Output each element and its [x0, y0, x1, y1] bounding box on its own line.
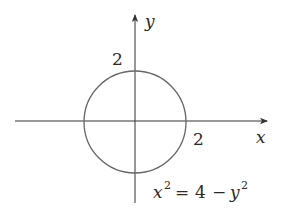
equation-rhs-exp: 2	[241, 179, 248, 192]
diagram-canvas: y x 2 2 x 2 = 4 − y 2	[0, 0, 290, 219]
equation-equals: =	[175, 182, 189, 202]
equation-rhs-base: y	[229, 182, 240, 202]
y-intercept-label: 2	[112, 49, 123, 69]
x-axis-label: x	[256, 127, 266, 147]
x-intercept-label: 2	[193, 129, 204, 149]
equation-lhs-base: x	[153, 182, 163, 202]
equation-minus: −	[212, 182, 226, 202]
equation-lhs-exp: 2	[164, 179, 171, 192]
equation-label: x 2 = 4 − y 2	[153, 179, 248, 202]
equation-rhs-const: 4	[195, 182, 206, 202]
y-axis-label: y	[144, 11, 155, 31]
